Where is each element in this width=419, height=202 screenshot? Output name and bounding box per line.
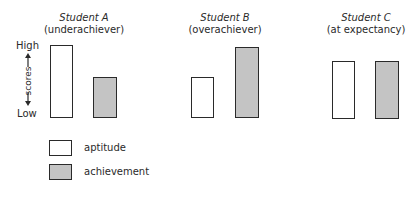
- legend-label-aptitude: aptitude: [84, 142, 126, 153]
- group-c-subtitle: (at expectancy): [306, 24, 419, 35]
- y-axis-high-label: High: [16, 40, 39, 51]
- bar-c-achievement: [375, 61, 399, 119]
- legend-swatch-achievement: [49, 164, 72, 180]
- bar-a-achievement: [93, 77, 117, 118]
- group-a-title: Student A: [24, 12, 144, 23]
- group-b-title: Student B: [165, 12, 285, 23]
- bar-b-achievement: [235, 47, 259, 118]
- bar-a-aptitude: [50, 45, 73, 118]
- y-axis-low-label: Low: [17, 108, 37, 119]
- legend-label-achievement: achievement: [84, 166, 149, 177]
- legend-swatch-aptitude: [49, 140, 72, 156]
- group-c-title: Student C: [306, 12, 419, 23]
- arrow-down-icon: [24, 92, 32, 106]
- group-a-subtitle: (underachiever): [24, 24, 144, 35]
- bar-c-aptitude: [332, 61, 355, 119]
- bar-b-aptitude: [191, 77, 214, 118]
- group-b-subtitle: (overachiever): [165, 24, 285, 35]
